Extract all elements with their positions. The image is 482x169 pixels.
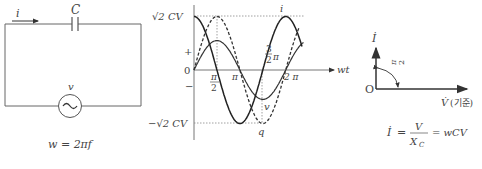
angle-arc-icon — [378, 68, 398, 87]
y-min-label: −√2 CV — [148, 118, 189, 129]
capacitor-label: C — [71, 3, 80, 17]
curve-q-label: q — [258, 126, 264, 137]
zero-label: 0 — [184, 65, 190, 76]
formula-eq: = — [397, 126, 406, 139]
origin-label: O — [365, 83, 374, 96]
formula-den: X — [409, 136, 418, 147]
angle-den: 2 — [397, 60, 406, 65]
current-phasor-label: İ — [371, 31, 377, 45]
circuit: i C v w = 2πf — [5, 3, 141, 151]
formula-lhs: İ — [386, 125, 392, 139]
voltage-reference-note: (기준) — [450, 98, 473, 108]
source-label: v — [68, 81, 74, 92]
curve-v-label: v — [264, 101, 270, 112]
diagram-canvas: i C v w = 2πf wt √2 CV −√2 CV + 0 − π 2 … — [0, 0, 482, 169]
tick-half-pi-num: π — [210, 72, 218, 82]
tick-two-pi-label: 2 π — [283, 72, 300, 82]
formula-den-sub: C — [419, 141, 425, 149]
plus-label: + — [184, 46, 192, 57]
tick-3half-den: 2 — [266, 55, 272, 65]
phasor-diagram: O İ π 2 V̇ (기준) İ = V X C = wCV — [365, 31, 473, 149]
minus-label: − — [185, 81, 193, 92]
formula-rhs: = wCV — [432, 127, 469, 138]
circuit-wire — [5, 24, 141, 106]
voltage-phasor-label: V̇ — [441, 97, 450, 108]
tick-3half-suffix: π — [272, 52, 280, 62]
tick-3half-num: 3 — [266, 44, 272, 54]
omega-formula: w = 2πf — [48, 138, 94, 151]
curve-i-label: i — [280, 3, 283, 14]
y-max-label: √2 CV — [152, 11, 185, 22]
current-label: i — [16, 7, 20, 20]
tick-half-pi-den: 2 — [211, 83, 217, 93]
tick-pi-label: π — [231, 72, 239, 82]
x-axis-label: wt — [337, 64, 351, 75]
waveform-graph: wt √2 CV −√2 CV + 0 − π 2 π 3 2 π 2 π i … — [148, 3, 351, 140]
formula-num: V — [415, 121, 424, 132]
